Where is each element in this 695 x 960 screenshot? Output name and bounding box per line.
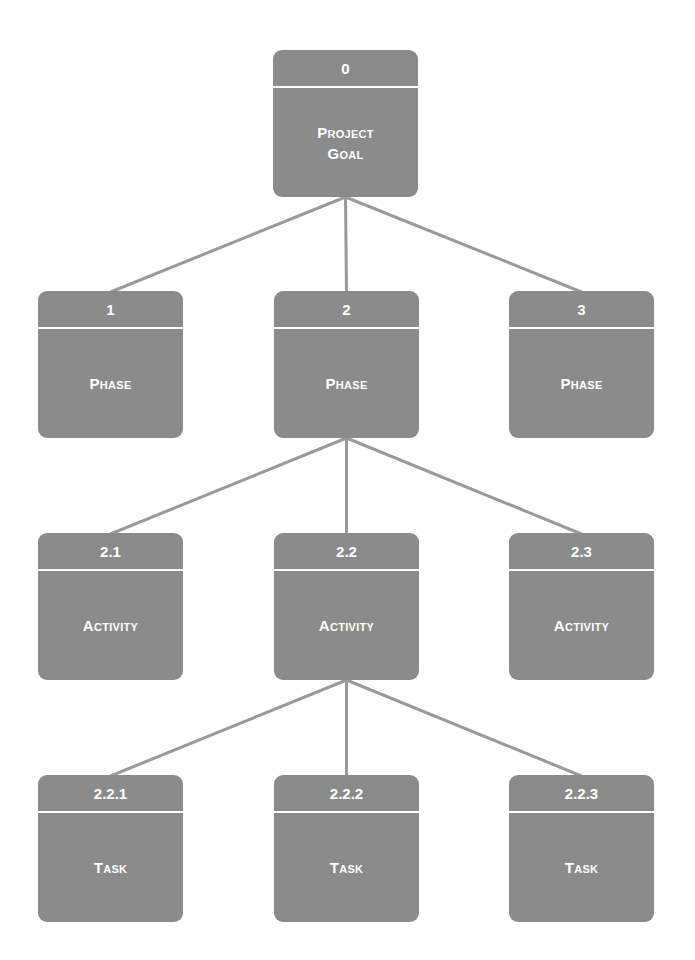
node-task-2-2-3[interactable]: 2.2.3 Task <box>509 775 654 922</box>
connector-line <box>347 680 582 776</box>
node-id: 3 <box>509 291 654 329</box>
node-id: 2.1 <box>38 533 183 571</box>
node-id: 2.3 <box>509 533 654 571</box>
node-activity-2-3[interactable]: 2.3 Activity <box>509 533 654 680</box>
node-label: Task <box>509 813 654 922</box>
connector-line <box>346 197 582 292</box>
node-label: Task <box>274 813 419 922</box>
node-label: Phase <box>38 329 183 438</box>
node-id: 2 <box>274 291 419 329</box>
node-id: 2.2 <box>274 533 419 571</box>
node-label: Activity <box>274 571 419 680</box>
node-project-goal[interactable]: 0 Project Goal <box>273 50 418 197</box>
node-activity-2-2[interactable]: 2.2 Activity <box>274 533 419 680</box>
node-id: 2.2.1 <box>38 775 183 813</box>
connector-line <box>111 438 347 534</box>
node-phase-1[interactable]: 1 Phase <box>38 291 183 438</box>
node-id: 2.2.2 <box>274 775 419 813</box>
connector-line <box>111 197 346 292</box>
node-task-2-2-2[interactable]: 2.2.2 Task <box>274 775 419 922</box>
connector-line <box>346 197 347 292</box>
node-label: Activity <box>509 571 654 680</box>
connector-line <box>111 680 347 776</box>
node-id: 2.2.3 <box>509 775 654 813</box>
node-phase-3[interactable]: 3 Phase <box>509 291 654 438</box>
node-label: Project Goal <box>273 88 418 197</box>
node-label: Activity <box>38 571 183 680</box>
node-task-2-2-1[interactable]: 2.2.1 Task <box>38 775 183 922</box>
node-phase-2[interactable]: 2 Phase <box>274 291 419 438</box>
node-id: 1 <box>38 291 183 329</box>
node-label: Phase <box>509 329 654 438</box>
node-id: 0 <box>273 50 418 88</box>
node-label: Phase <box>274 329 419 438</box>
node-activity-2-1[interactable]: 2.1 Activity <box>38 533 183 680</box>
node-label: Task <box>38 813 183 922</box>
connector-line <box>347 438 582 534</box>
